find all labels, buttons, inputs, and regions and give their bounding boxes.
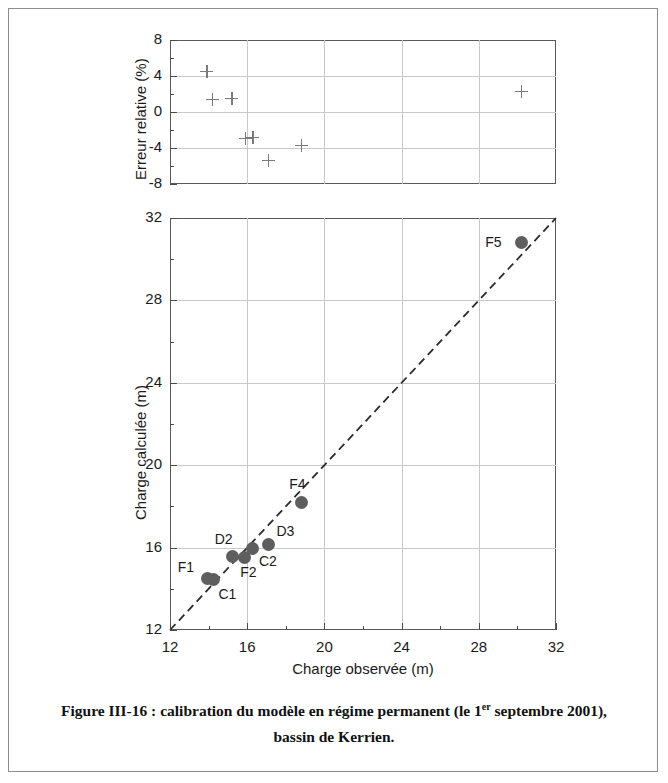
calibration-point-c1 [207, 573, 220, 586]
calibration-y-tick [170, 300, 177, 301]
calibration-y-tick [170, 465, 177, 466]
calibration-y-minor-tick [170, 342, 174, 343]
calibration-point-label-f5: F5 [485, 234, 501, 250]
calibration-gridline-horizontal [170, 300, 556, 301]
error-chart-y-tick [170, 76, 177, 77]
calibration-x-tick-label: 12 [140, 638, 200, 655]
error-chart-gridline-horizontal [170, 112, 556, 113]
calibration-y-minor-tick [170, 506, 174, 507]
calibration-x-minor-tick [363, 626, 364, 630]
error-chart-point-c1 [206, 93, 219, 106]
error-chart-point-f4 [295, 139, 308, 152]
error-chart-gridline-vertical [479, 40, 480, 184]
calibration-point-f5 [515, 236, 528, 249]
error-chart-y-tick [170, 148, 177, 149]
error-chart-gridline-horizontal [170, 76, 556, 77]
error-chart-point-d3 [262, 154, 275, 167]
calibration-point-d3 [262, 538, 275, 551]
error-chart-y-axis-title: Erreur relative (%) [132, 58, 149, 180]
error-chart-gridline-vertical [402, 40, 403, 184]
calibration-gridline-vertical [402, 218, 403, 630]
calibration-x-tick [556, 623, 557, 630]
calibration-y-axis-title: Charge calculée (m) [132, 385, 149, 520]
error-chart-gridline-horizontal [170, 148, 556, 149]
calibration-plot-area [170, 218, 556, 630]
calibration-gridline-horizontal [170, 548, 556, 549]
calibration-y-tick-label: 12 [122, 620, 162, 637]
error-chart-y-minor-tick [170, 130, 174, 131]
error-chart-y-tick [170, 40, 177, 41]
calibration-y-tick [170, 630, 177, 631]
calibration-y-minor-tick [170, 424, 174, 425]
calibration-x-tick-label: 24 [372, 638, 432, 655]
error-chart-point-f5 [515, 85, 528, 98]
figure-page: 840-4-8 Erreur relative (%) 121620242832… [0, 0, 668, 783]
calibration-y-tick-label: 16 [122, 538, 162, 555]
calibration-x-tick [402, 623, 403, 630]
calibration-gridline-vertical [479, 218, 480, 630]
calibration-point-label-d3: D3 [276, 523, 294, 539]
calibration-point-f4 [295, 496, 308, 509]
error-chart-y-minor-tick [170, 94, 174, 95]
error-chart-point-f1 [200, 65, 213, 78]
calibration-point-label-f2: F2 [240, 564, 256, 580]
caption-text-mid: septembre 2001), [491, 702, 607, 719]
caption-text-prefix: Figure III-16 : calibration du modèle en… [61, 702, 482, 719]
error-chart-y-minor-tick [170, 166, 174, 167]
calibration-x-minor-tick [209, 626, 210, 630]
calibration-y-tick [170, 383, 177, 384]
caption-line-1: Figure III-16 : calibration du modèle en… [30, 698, 638, 724]
calibration-y-minor-tick [170, 589, 174, 590]
calibration-x-tick-label: 16 [217, 638, 277, 655]
calibration-y-minor-tick [170, 259, 174, 260]
calibration-x-tick [324, 623, 325, 630]
calibration-point-label-f1: F1 [178, 559, 194, 575]
calibration-gridline-vertical [324, 218, 325, 630]
error-chart-y-tick [170, 112, 177, 113]
error-chart-y-tick-label: 8 [124, 30, 162, 47]
calibration-point-label-d2: D2 [215, 531, 233, 547]
caption-ordinal-suffix: er [482, 701, 491, 712]
calibration-x-minor-tick [517, 626, 518, 630]
error-chart-y-minor-tick [170, 58, 174, 59]
error-chart-gridline-vertical [324, 40, 325, 184]
calibration-gridline-horizontal [170, 383, 556, 384]
calibration-y-tick [170, 218, 177, 219]
calibration-point-label-c2: C2 [259, 553, 277, 569]
calibration-x-tick-label: 32 [526, 638, 586, 655]
calibration-x-minor-tick [286, 626, 287, 630]
calibration-y-tick-label: 28 [122, 290, 162, 307]
figure-caption: Figure III-16 : calibration du modèle en… [30, 698, 638, 750]
caption-line-2: bassin de Kerrien. [30, 724, 638, 750]
calibration-y-tick-label: 32 [122, 208, 162, 225]
calibration-x-tick-label: 20 [294, 638, 354, 655]
calibration-gridline-horizontal [170, 465, 556, 466]
calibration-y-tick [170, 548, 177, 549]
error-chart-y-tick [170, 184, 177, 185]
calibration-x-tick-label: 28 [449, 638, 509, 655]
calibration-x-minor-tick [440, 626, 441, 630]
calibration-x-tick [247, 623, 248, 630]
error-chart-point-c2 [246, 131, 259, 144]
calibration-point-label-f4: F4 [289, 476, 305, 492]
calibration-x-tick [170, 623, 171, 630]
calibration-x-axis-title: Charge observée (m) [170, 660, 556, 677]
error-chart-point-d2 [225, 92, 238, 105]
error-chart-gridline-vertical [247, 40, 248, 184]
calibration-x-tick [479, 623, 480, 630]
calibration-point-label-c1: C1 [218, 586, 236, 602]
